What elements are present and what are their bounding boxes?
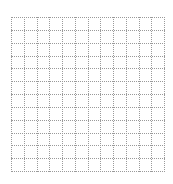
grid-horizontal-line <box>11 94 165 95</box>
grid-horizontal-line <box>11 43 165 44</box>
grid-horizontal-line <box>11 68 165 69</box>
grid-horizontal-line <box>11 133 165 134</box>
grid-horizontal-line <box>11 56 165 57</box>
dotted-grid <box>11 17 165 172</box>
grid-horizontal-line <box>11 30 165 31</box>
faint-title <box>0 0 173 14</box>
grid-horizontal-line <box>11 145 165 146</box>
grid-horizontal-line <box>11 158 165 159</box>
grid-horizontal-line <box>11 171 165 172</box>
grid-horizontal-line <box>11 120 165 121</box>
grid-horizontal-line <box>11 107 165 108</box>
grid-horizontal-line <box>11 81 165 82</box>
grid-horizontal-line <box>11 17 165 18</box>
